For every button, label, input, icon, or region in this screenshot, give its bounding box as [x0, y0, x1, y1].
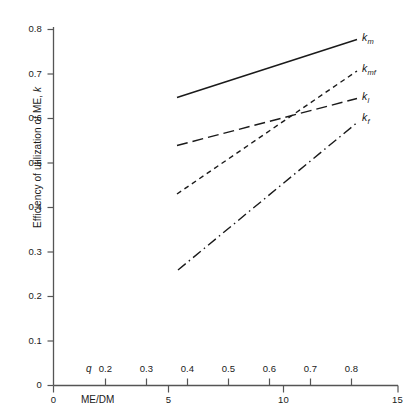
series-label-kl-symbol: k	[362, 90, 367, 102]
y-tick-label: 0	[16, 379, 42, 390]
chart-plot-area	[0, 0, 408, 419]
y-tick-label: 0.4	[16, 201, 42, 212]
series-label-kmf-symbol: k	[362, 62, 367, 74]
q-tick-label: 0.6	[254, 363, 285, 374]
y-tick-label: 0.2	[16, 290, 42, 301]
q-tick-label: 0.3	[131, 363, 162, 374]
medm-tick-label: 5	[156, 394, 181, 405]
y-tick-label: 0.1	[16, 335, 42, 346]
series-label-km-symbol: k	[362, 31, 367, 43]
q-tick-label: 0.4	[172, 363, 203, 374]
q-tick-label: 0.7	[295, 363, 326, 374]
series-label-kf: kf	[362, 111, 369, 123]
chart-figure: Efficiency of utilization of ME, k	[0, 0, 408, 419]
series-label-kf-symbol: k	[362, 111, 367, 123]
q-tick-label: 0.5	[213, 363, 244, 374]
series-kl	[177, 99, 357, 146]
y-axis-ticks	[48, 30, 54, 386]
series-label-kmf-sub: mf	[368, 68, 376, 77]
series-kf	[178, 124, 356, 271]
q-axis-ticks	[106, 379, 352, 386]
series-label-km-sub: m	[368, 37, 374, 46]
series-label-kl: kl	[362, 90, 369, 102]
y-tick-label: 0.8	[16, 23, 42, 34]
q-tick-label: 0.2	[90, 363, 121, 374]
series-label-kmf: kmf	[362, 62, 376, 74]
y-tick-label: 0.6	[16, 112, 42, 123]
y-tick-label: 0.7	[16, 68, 42, 79]
q-tick-label: 0.8	[336, 363, 367, 374]
y-tick-label: 0.5	[16, 157, 42, 168]
y-tick-label: 0.3	[16, 246, 42, 257]
medm-tick-label: 15	[385, 394, 408, 405]
medm-tick-label: 10	[271, 394, 296, 405]
medm-tick-label: 0	[41, 394, 66, 405]
series-label-kl-sub: l	[368, 96, 370, 105]
series-km	[177, 40, 357, 98]
series-label-kf-sub: f	[368, 117, 370, 126]
medm-axis-name: ME/DM	[81, 394, 114, 405]
series-label-km: km	[362, 31, 374, 43]
medm-axis-ticks	[54, 386, 399, 393]
